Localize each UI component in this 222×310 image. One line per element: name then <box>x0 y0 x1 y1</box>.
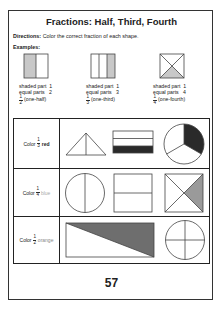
fraction-name: (one-fourth) <box>158 97 185 103</box>
color-word: orange <box>38 237 54 243</box>
rectangle-thirds-shape[interactable] <box>112 130 154 154</box>
circle-halves-shape[interactable] <box>64 172 106 214</box>
square-halves-shape[interactable] <box>113 173 153 213</box>
fraction: 13 <box>37 138 41 148</box>
fraction: 14 <box>36 187 40 197</box>
shaded-value: 1 <box>183 83 186 89</box>
equal-value: 2 <box>49 89 52 95</box>
square-halves-icon <box>23 53 51 79</box>
fraction: 12 <box>19 95 23 105</box>
square-fourths-icon <box>159 53 187 79</box>
row-label: Color 14 blue <box>14 169 60 216</box>
equal-label: equal parts <box>86 89 112 95</box>
row-label: Color 13 red <box>14 119 60 168</box>
color-word: red <box>42 141 50 147</box>
circle-thirds-shape[interactable] <box>162 122 206 166</box>
square-thirds-icon <box>90 53 118 79</box>
shaded-label: shaded part <box>153 83 180 89</box>
shapes-cell <box>60 217 209 263</box>
directions: Directions: Color the correct fraction o… <box>13 33 139 39</box>
color-word: blue <box>41 190 50 196</box>
page-number: 57 <box>9 276 214 290</box>
examples-label: Examples: <box>13 44 40 50</box>
exercise-row-one-fourth-blue: Color 14 blue <box>14 169 209 217</box>
shaded-label: shaded part <box>19 83 46 89</box>
row-label: Color 12 orange <box>14 217 60 263</box>
square-fourths-shape[interactable] <box>164 173 204 213</box>
shaded-value: 1 <box>49 83 52 89</box>
equal-value: 3 <box>116 89 119 95</box>
fraction: 13 <box>86 95 90 105</box>
example-text: shaded part 1 equal parts 2 12 (one-half… <box>19 83 52 106</box>
equal-label: equal parts <box>153 89 179 95</box>
shapes-cell <box>60 119 209 168</box>
shaded-label: shaded part <box>86 83 113 89</box>
equal-label: equal parts <box>19 89 45 95</box>
example-text: shaded part 1 equal parts 3 13 (one-thir… <box>86 83 119 106</box>
fraction-name: (one-half) <box>24 97 46 103</box>
exercise-row-one-half-orange: Color 12 orange <box>14 217 209 263</box>
equal-value: 4 <box>183 89 186 95</box>
fraction: 14 <box>153 95 157 105</box>
fraction: 12 <box>33 235 37 245</box>
rectangle-diagonal-shape[interactable] <box>65 222 155 258</box>
circle-fourths-shape[interactable] <box>164 219 206 261</box>
worksheet-page: Fractions: Half, Third, Fourth Direction… <box>8 10 213 300</box>
triangle-halves-shape[interactable] <box>64 131 108 157</box>
directions-label: Directions: <box>13 33 41 39</box>
page-title: Fractions: Half, Third, Fourth <box>9 16 214 27</box>
example-text: shaded part 1 equal parts 4 14 (one-four… <box>153 83 186 106</box>
exercise-row-one-third-red: Color 13 red <box>14 119 209 169</box>
exercise-table: Color 13 red <box>13 118 210 264</box>
shapes-cell <box>60 169 209 216</box>
shaded-value: 1 <box>116 83 119 89</box>
fraction-name: (one-third) <box>91 97 115 103</box>
directions-text: Color the correct fraction of each shape… <box>43 33 139 39</box>
